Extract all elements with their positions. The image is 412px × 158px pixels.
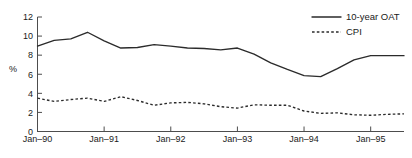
x-tick-label: Jan–92 bbox=[156, 134, 186, 144]
y-tick-label: 12 bbox=[23, 12, 33, 22]
y-axis-group: 024681012 % bbox=[9, 12, 42, 137]
x-axis-ticks bbox=[38, 127, 371, 132]
y-axis-tick-labels: 024681012 bbox=[23, 12, 33, 137]
y-tick-label: 8 bbox=[28, 50, 33, 60]
series-line-cpi bbox=[38, 97, 405, 116]
x-tick-label: Jan–95 bbox=[356, 134, 386, 144]
y-tick-label: 10 bbox=[23, 31, 33, 41]
x-tick-label: Jan–90 bbox=[23, 134, 53, 144]
y-tick-label: 4 bbox=[28, 89, 33, 99]
x-axis-tick-labels: Jan–90Jan–91Jan–92Jan–93Jan–94Jan–95 bbox=[23, 134, 386, 144]
legend-label-cpi: CPI bbox=[346, 26, 362, 37]
x-axis-group: Jan–90Jan–91Jan–92Jan–93Jan–94Jan–95 bbox=[23, 127, 404, 145]
chart-legend: 10-year OATCPI bbox=[312, 11, 400, 37]
x-tick-label: Jan–91 bbox=[89, 134, 119, 144]
chart-container: 024681012 % Jan–90Jan–91Jan–92Jan–93Jan–… bbox=[0, 0, 412, 158]
y-tick-label: 6 bbox=[28, 70, 33, 80]
y-tick-label: 2 bbox=[28, 108, 33, 118]
series-line-10-year-oat bbox=[38, 32, 405, 76]
data-series-group bbox=[38, 32, 405, 115]
x-tick-label: Jan–93 bbox=[223, 134, 253, 144]
y-axis-ticks bbox=[38, 17, 43, 132]
legend-label-10-year-oat: 10-year OAT bbox=[346, 11, 400, 22]
x-tick-label: Jan–94 bbox=[289, 134, 319, 144]
y-axis-title: % bbox=[9, 64, 17, 74]
line-chart: 024681012 % Jan–90Jan–91Jan–92Jan–93Jan–… bbox=[0, 0, 412, 158]
